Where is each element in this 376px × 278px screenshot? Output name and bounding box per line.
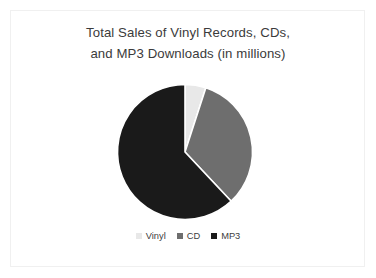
- chart-title-line-1: Total Sales of Vinyl Records, CDs,: [28, 22, 348, 43]
- chart-title: Total Sales of Vinyl Records, CDs, and M…: [28, 22, 348, 64]
- legend-label: CD: [187, 231, 200, 241]
- legend-swatch-icon-vinyl: [136, 233, 142, 239]
- pie-slice-group: [117, 85, 252, 220]
- legend-item-vinyl: Vinyl: [136, 231, 166, 241]
- legend-swatch-icon-cd: [177, 233, 183, 239]
- legend-swatch-icon-mp3: [211, 233, 217, 239]
- chart-title-line-2: and MP3 Downloads (in millions): [28, 43, 348, 64]
- legend-item-cd: CD: [177, 231, 200, 241]
- legend-label: MP3: [221, 231, 240, 241]
- pie-chart: [112, 79, 258, 225]
- slide-canvas: Total Sales of Vinyl Records, CDs, and M…: [0, 0, 376, 278]
- chart-legend: VinylCDMP3: [0, 231, 376, 241]
- legend-label: Vinyl: [146, 231, 166, 241]
- legend-item-mp3: MP3: [211, 231, 240, 241]
- pie-chart-svg: [112, 79, 258, 225]
